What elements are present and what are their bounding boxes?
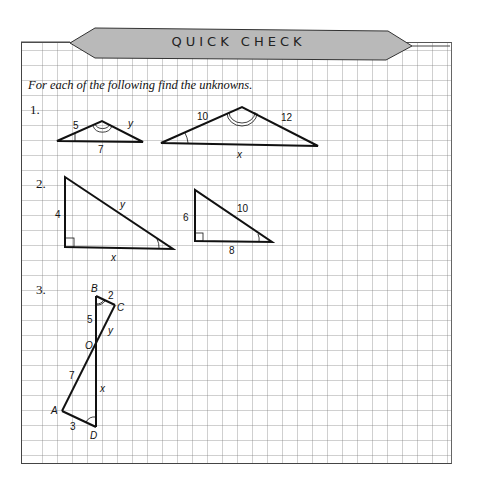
vertex-label-a: A <box>50 405 58 416</box>
side-label: 5 <box>87 314 93 325</box>
right-triangle-2a: 4 y x <box>55 177 173 263</box>
side-label: 10 <box>237 203 249 214</box>
vertex-label-c: C <box>117 302 125 313</box>
hourglass-triangles: B C O A D 2 5 y 7 x 3 <box>50 283 125 441</box>
side-label: x <box>236 149 243 160</box>
vertex-label-o: O <box>85 340 93 351</box>
side-label: y <box>119 199 126 210</box>
side-label: 8 <box>229 245 235 256</box>
triangle-1b: 10 12 x <box>161 107 318 160</box>
vertex-label-b: B <box>91 283 98 294</box>
side-label: 7 <box>98 144 104 155</box>
figures-layer: 5 y 7 10 12 x 4 y x 6 10 8 B <box>0 0 477 485</box>
side-label: 7 <box>69 370 75 381</box>
side-label: 6 <box>183 212 189 223</box>
side-label: x <box>110 252 117 263</box>
side-label: 2 <box>108 290 114 301</box>
right-triangle-2b: 6 10 8 <box>183 190 272 256</box>
side-label: y <box>107 325 114 336</box>
side-label: 4 <box>55 209 61 220</box>
side-label: y <box>127 118 134 129</box>
vertex-label-d: D <box>90 430 97 441</box>
side-label: 3 <box>70 421 76 432</box>
side-label: 5 <box>73 120 79 131</box>
side-label: 12 <box>281 112 293 123</box>
side-label: x <box>99 383 106 394</box>
triangle-1a: 5 y 7 <box>57 118 143 155</box>
side-label: 10 <box>197 111 209 122</box>
